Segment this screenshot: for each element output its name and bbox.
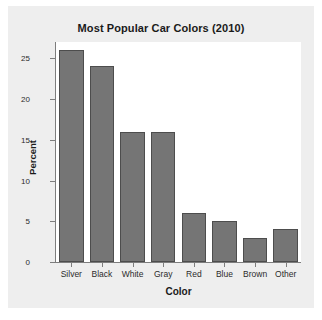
y-axis-tick	[50, 58, 55, 59]
bar-silver	[59, 50, 84, 262]
bar-other	[273, 229, 298, 262]
x-axis-tick	[71, 263, 72, 267]
x-axis-tick	[286, 263, 287, 267]
x-axis-tick	[102, 263, 103, 267]
y-axis-tick	[50, 99, 55, 100]
x-axis-tick	[255, 263, 256, 267]
y-axis-tick	[50, 181, 55, 182]
y-axis-tick-label: 0	[26, 258, 30, 267]
bar-blue	[212, 221, 237, 262]
bar-white	[120, 132, 145, 262]
bar-brown	[243, 238, 268, 262]
y-axis-tick-label: 25	[21, 54, 30, 63]
x-axis-tick-label: Gray	[154, 269, 172, 279]
y-axis-tick	[50, 262, 55, 263]
x-axis-tick-label: Blue	[216, 269, 233, 279]
x-axis-tick-label: Red	[186, 269, 202, 279]
x-axis-tick	[224, 263, 225, 267]
y-axis-tick-label: 20	[21, 95, 30, 104]
bar-red	[182, 213, 207, 262]
y-axis-title: Percent	[27, 128, 38, 188]
chart-title: Most Popular Car Colors (2010)	[8, 22, 314, 34]
x-axis-title: Color	[56, 286, 301, 297]
x-axis-tick-label: Black	[92, 269, 113, 279]
x-axis-tick-label: White	[122, 269, 144, 279]
x-axis-tick-label: Brown	[243, 269, 267, 279]
x-axis-tick	[133, 263, 134, 267]
x-axis-tick	[163, 263, 164, 267]
y-axis-line	[55, 42, 56, 263]
x-axis-tick	[194, 263, 195, 267]
x-axis-tick-label: Silver	[61, 269, 82, 279]
x-axis-tick-label: Other	[275, 269, 296, 279]
bar-gray	[151, 132, 176, 262]
chart-card: Most Popular Car Colors (2010) 051015202…	[8, 6, 314, 308]
y-axis-tick-label: 5	[26, 217, 30, 226]
bar-black	[90, 66, 115, 262]
x-axis-line	[55, 262, 301, 263]
y-axis-tick	[50, 221, 55, 222]
y-axis-tick	[50, 140, 55, 141]
